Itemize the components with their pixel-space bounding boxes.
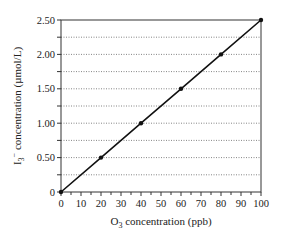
data-point — [139, 121, 143, 125]
data-point — [99, 155, 103, 159]
x-tick-label: 30 — [116, 198, 127, 209]
y-axis-label: I3− concentration (µmol/L) — [10, 47, 26, 165]
x-tick-label: 50 — [156, 198, 167, 209]
chart: 00.501.001.502.002.500102030405060708090… — [0, 0, 283, 243]
x-tick-label: 40 — [136, 198, 147, 209]
data-point — [259, 18, 263, 22]
x-tick-label: 60 — [176, 198, 187, 209]
y-tick-label: 0 — [50, 187, 55, 198]
x-tick-label: 70 — [196, 198, 207, 209]
data-point — [179, 87, 183, 91]
y-tick-label: 1.50 — [37, 83, 55, 94]
y-tick-label: 1.00 — [37, 118, 55, 129]
x-tick-label: 80 — [216, 198, 227, 209]
x-tick-label: 90 — [236, 198, 247, 209]
x-axis-label: O3 concentration (ppb) — [110, 215, 211, 230]
y-tick-label: 0.50 — [37, 152, 55, 163]
x-tick-label: 100 — [253, 198, 269, 209]
x-tick-label: 20 — [96, 198, 107, 209]
y-tick-label: 2.50 — [37, 15, 55, 26]
x-tick-label: 0 — [58, 198, 63, 209]
y-tick-label: 2.00 — [37, 49, 55, 60]
x-tick-label: 10 — [76, 198, 87, 209]
data-point — [59, 190, 63, 194]
data-point — [219, 52, 223, 56]
